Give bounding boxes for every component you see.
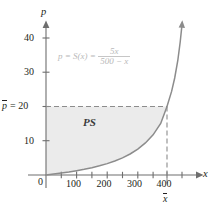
origin-label: 0 <box>38 177 43 187</box>
y-axis-label: p <box>41 7 46 18</box>
supply-curve-figure: p x 40 30 10 p= 20 0 100 200 300 400 x P… <box>0 0 211 212</box>
y-tick-label-10: 10 <box>24 136 34 146</box>
x-tick-label-400: 400 <box>157 179 172 189</box>
y-tick-label-30: 30 <box>24 67 34 77</box>
equilibrium-price-label: p= 20 <box>2 100 28 111</box>
equilibrium-quantity-label: x <box>163 193 167 204</box>
formula-lhs: p = S(x) = <box>58 51 96 61</box>
supply-curve-arrow <box>179 20 185 28</box>
p-bar-symbol: p <box>2 100 7 111</box>
formula-denominator: 500 − x <box>98 57 130 66</box>
producer-surplus-label: PS <box>83 117 96 128</box>
formula-fraction: 5x 500 − x <box>98 47 130 67</box>
producer-surplus-shaded-region <box>46 107 167 176</box>
p-bar-value: = 20 <box>10 100 28 111</box>
x-bar-symbol: x <box>163 193 167 204</box>
x-tick-label-300: 300 <box>127 179 142 189</box>
x-tick-label-100: 100 <box>66 179 81 189</box>
supply-function-formula: p = S(x) = 5x 500 − x <box>58 47 130 67</box>
y-tick-label-40: 40 <box>24 33 34 43</box>
y-axis-arrow <box>43 21 50 29</box>
x-axis-label: x <box>203 169 208 180</box>
x-tick-label-200: 200 <box>97 179 112 189</box>
